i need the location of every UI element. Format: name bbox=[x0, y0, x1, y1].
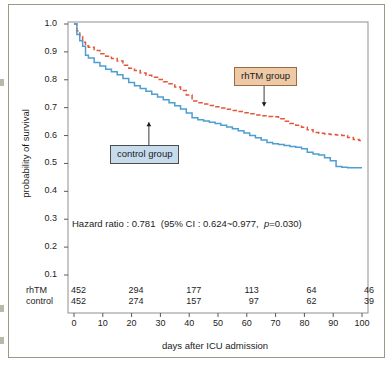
risk-table-cell: 177 bbox=[177, 285, 201, 295]
risk-table-cell: 274 bbox=[120, 296, 144, 306]
x-tick-label: 30 bbox=[150, 318, 170, 328]
risk-table-row-label: rhTM bbox=[26, 285, 47, 295]
risk-table-cell: 62 bbox=[292, 296, 316, 306]
survival-plot bbox=[0, 0, 391, 365]
risk-table-cell: 157 bbox=[177, 296, 201, 306]
annotation-rhtm-group-label: rhTM group bbox=[241, 70, 290, 81]
p-value: =0.030) bbox=[269, 218, 302, 229]
risk-table-cell: 64 bbox=[292, 285, 316, 295]
annotation-control-group-label: control group bbox=[117, 148, 172, 159]
y-tick-label: 0.4 bbox=[33, 185, 57, 195]
confidence-interval: (95% CI : 0.624~0.977, bbox=[161, 218, 259, 229]
x-tick-label: 70 bbox=[266, 318, 286, 328]
risk-table-cell: 39 bbox=[350, 296, 374, 306]
x-tick-label: 50 bbox=[208, 318, 228, 328]
annotation-rhtm-group[interactable]: rhTM group bbox=[234, 67, 297, 86]
risk-table-cell: 452 bbox=[62, 296, 86, 306]
x-tick-label: 100 bbox=[352, 318, 372, 328]
x-tick-label: 0 bbox=[64, 318, 84, 328]
y-tick-label: 0.5 bbox=[33, 157, 57, 167]
risk-table-cell: 113 bbox=[235, 285, 259, 295]
hazard-ratio-statistics: Hazard ratio : 0.781 (95% CI : 0.624~0.9… bbox=[72, 218, 302, 229]
y-tick-label: 0.8 bbox=[33, 74, 57, 84]
risk-table-row-label: control bbox=[26, 296, 53, 306]
y-tick-label: 0.9 bbox=[33, 46, 57, 56]
x-tick-label: 90 bbox=[323, 318, 343, 328]
x-tick-label: 20 bbox=[122, 318, 142, 328]
y-tick-label: 0.2 bbox=[33, 241, 57, 251]
x-tick-label: 60 bbox=[237, 318, 257, 328]
x-tick-label: 10 bbox=[93, 318, 113, 328]
risk-table-cell: 452 bbox=[62, 285, 86, 295]
hazard-ratio-value: Hazard ratio : 0.781 bbox=[72, 218, 155, 229]
y-tick-label: 0.3 bbox=[33, 213, 57, 223]
risk-table-cell: 46 bbox=[350, 285, 374, 295]
x-tick-label: 80 bbox=[294, 318, 314, 328]
y-axis-label: probability of survival bbox=[20, 84, 31, 224]
annotation-control-group[interactable]: control group bbox=[110, 145, 179, 164]
x-tick-label: 40 bbox=[179, 318, 199, 328]
risk-table-cell: 294 bbox=[120, 285, 144, 295]
y-tick-label: 0.7 bbox=[33, 102, 57, 112]
y-tick-label: 0.1 bbox=[33, 269, 57, 279]
risk-table-cell: 97 bbox=[235, 296, 259, 306]
x-axis-label: days after ICU admission bbox=[60, 340, 370, 351]
y-tick-label: 0.6 bbox=[33, 130, 57, 140]
figure-container: probability of survival days after ICU a… bbox=[0, 0, 391, 365]
y-tick-label: 1.0 bbox=[33, 18, 57, 28]
